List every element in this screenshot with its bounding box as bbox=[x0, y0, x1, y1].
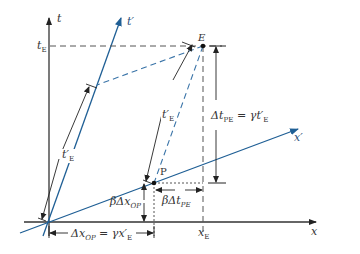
diagram-canvas bbox=[0, 0, 360, 254]
spacetime-diagram: t x t′ x′ E P tE xE t′E t′E ΔtPE = γt′E … bbox=[0, 0, 360, 254]
x-prime-axis bbox=[20, 129, 298, 233]
t-axis-label: t bbox=[57, 13, 61, 24]
t-prime-E-label-right: t′E bbox=[161, 109, 175, 123]
x-E-tick-label: xE bbox=[198, 227, 210, 241]
event-P-dot bbox=[152, 181, 157, 186]
delta-t-PE-label: ΔtPE = γt′E bbox=[210, 110, 270, 124]
t-E-tick-label: tE bbox=[37, 40, 47, 54]
x-prime-axis-label: x′ bbox=[294, 132, 303, 143]
delta-x-OP-label: ΔxOP = γx′E bbox=[70, 228, 133, 242]
t-prime-E-label-left: t′E bbox=[61, 149, 75, 163]
event-E-dot bbox=[201, 44, 206, 49]
event-P-label: P bbox=[160, 167, 167, 177]
x-axis-label: x bbox=[311, 226, 317, 237]
beta-delta-t-PE-label: βΔtPE bbox=[162, 195, 191, 209]
event-E-label: E bbox=[198, 33, 205, 43]
E-to-t-prime-axis-dashed bbox=[97, 46, 203, 85]
t-prime-axis-label: t′ bbox=[127, 16, 134, 27]
beta-delta-x-OP-label: βΔxOP bbox=[110, 196, 141, 210]
